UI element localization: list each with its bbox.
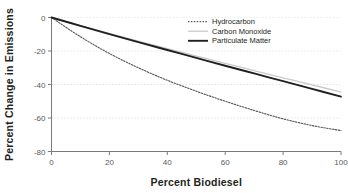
x-axis-title: Percent Biodiesel bbox=[150, 176, 242, 188]
series-group bbox=[52, 18, 342, 131]
y-tick-label: -80 bbox=[34, 148, 46, 157]
series-line-hydrocarbon bbox=[52, 18, 342, 131]
x-tick-label: 0 bbox=[49, 158, 54, 167]
gridlines bbox=[52, 18, 342, 119]
axis-ticks bbox=[48, 18, 341, 156]
emissions-line-chart: 0204060801000-20-40-60-80Percent Biodies… bbox=[0, 0, 348, 193]
x-tick-label: 40 bbox=[163, 158, 172, 167]
y-tick-label: -40 bbox=[34, 81, 46, 90]
legend-label-hydrocarbon: Hydrocarbon bbox=[212, 17, 255, 26]
legend-label-carbon-monoxide: Carbon Monoxide bbox=[212, 27, 271, 36]
x-tick-label: 60 bbox=[221, 158, 230, 167]
y-tick-label: -60 bbox=[34, 114, 46, 123]
x-tick-label: 20 bbox=[105, 158, 114, 167]
y-tick-label: -20 bbox=[34, 47, 46, 56]
y-axis-title: Percent Change in Emissions bbox=[3, 8, 15, 161]
series-line-carbon-monoxide bbox=[52, 18, 342, 93]
legend-label-particulate-matter: Particulate Matter bbox=[212, 36, 271, 45]
legend: HydrocarbonCarbon MonoxideParticulate Ma… bbox=[188, 17, 271, 45]
x-tick-label: 80 bbox=[279, 158, 288, 167]
x-tick-label: 100 bbox=[334, 158, 348, 167]
chart-figure: 0204060801000-20-40-60-80Percent Biodies… bbox=[0, 0, 348, 193]
y-tick-label: 0 bbox=[41, 14, 46, 23]
tick-labels: 0204060801000-20-40-60-80 bbox=[34, 14, 348, 167]
